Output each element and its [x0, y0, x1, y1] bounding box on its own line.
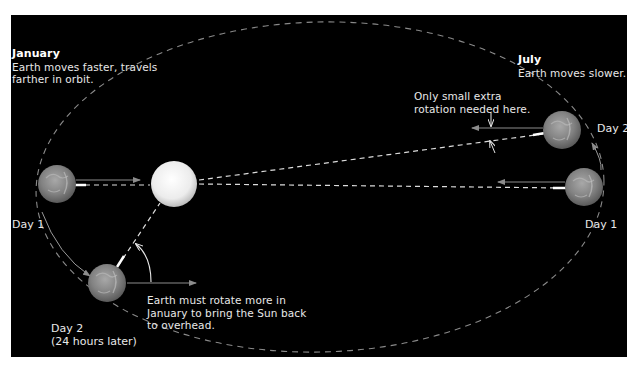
- small-rotation-line2: rotation needed here.: [414, 103, 530, 115]
- july-line1: Earth moves slower.: [518, 67, 626, 79]
- january-line2: farther in orbit.: [12, 73, 94, 85]
- jul-day2-label: Day 2: [597, 122, 627, 135]
- earth-jul-day1-icon: [565, 168, 603, 206]
- jul-day1-label: Day 1: [585, 218, 617, 231]
- january-caption: January Earth moves faster, travels fart…: [12, 48, 157, 86]
- july-caption: July Earth moves slower.: [518, 54, 626, 79]
- jan-day2-label: Day 2 (24 hours later): [51, 322, 137, 348]
- earth-jan-day1-icon: [38, 165, 76, 203]
- small-rotation-line1: Only small extra: [414, 90, 502, 102]
- diagram-panel: January Earth moves faster, travels fart…: [11, 15, 627, 357]
- earth-jul-day2-icon: [543, 111, 581, 149]
- jan-day2-label-line1: Day 2: [51, 322, 83, 335]
- small-rotation-annotation: Only small extra rotation needed here.: [414, 90, 530, 115]
- jul-day2-sun-line-head: [533, 133, 545, 135]
- january-line1: Earth moves faster, travels: [12, 61, 157, 73]
- more-rotation-line3: to overhead.: [147, 319, 215, 331]
- jan-orbit-arrow: [42, 212, 90, 276]
- jul-orbit-arrow: [592, 143, 601, 170]
- jan-day1-label: Day 1: [12, 218, 44, 231]
- sun-to-jul-day2-line: [199, 134, 543, 180]
- small-rotation-arrow-up: [490, 141, 495, 153]
- more-rotation-annotation: Earth must rotate more in January to bri…: [147, 294, 306, 332]
- sun-icon: [151, 161, 197, 207]
- july-title: July: [518, 54, 626, 67]
- jan-day2-sun-line-head: [117, 256, 124, 267]
- rotation-angle-arc: [136, 244, 151, 282]
- more-rotation-line2: January to bring the Sun back: [147, 307, 306, 319]
- earth-jan-day2-icon: [88, 264, 126, 302]
- sun-to-jul-day1-line: [199, 184, 565, 188]
- jan-day2-label-line2: (24 hours later): [51, 335, 137, 348]
- january-title: January: [12, 48, 157, 61]
- more-rotation-line1: Earth must rotate more in: [147, 294, 286, 306]
